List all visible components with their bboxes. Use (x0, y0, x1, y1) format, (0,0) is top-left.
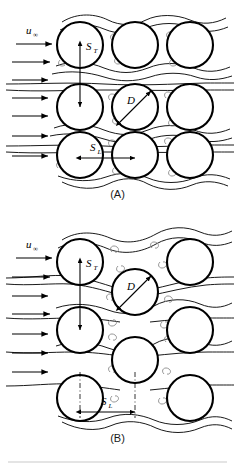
panel-b-longitudinal-pitch-label: S (101, 395, 107, 407)
panel-b-transverse-pitch-label: S (86, 257, 92, 269)
panel-b-caption: (B) (0, 432, 235, 444)
tube-bank-figure: S T D S L u ∞ (0, 0, 235, 466)
panel-a-transverse-pitch-label: S (86, 40, 92, 52)
panel-b-inlet-velocity-label: u (26, 238, 32, 250)
panel-a-diameter-label: D (126, 94, 135, 106)
panel-a-inlet-velocity-label: u (26, 24, 32, 36)
panel-a-longitudinal-pitch-sublabel: L (97, 148, 102, 156)
panel-a-caption: (A) (0, 188, 235, 200)
panel-b-longitudinal-pitch-sublabel: L (108, 402, 113, 410)
panel-a-inlet-velocity-sublabel: ∞ (33, 31, 38, 39)
panel-b-diameter-label: D (126, 280, 135, 292)
panel-a-longitudinal-pitch-label: S (90, 141, 96, 153)
panel-b-inlet-velocity-sublabel: ∞ (33, 245, 38, 253)
